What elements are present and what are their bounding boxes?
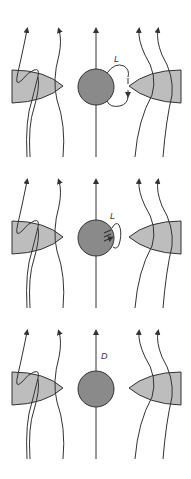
right-wedge xyxy=(129,221,181,254)
right-wedge xyxy=(129,70,181,103)
right-wedge xyxy=(129,372,181,405)
label-L-panel-1: L xyxy=(114,54,119,64)
panel-3: D xyxy=(12,332,181,459)
label-D: D xyxy=(101,351,108,361)
sphere xyxy=(78,371,114,407)
field-line xyxy=(55,30,64,157)
sphere xyxy=(78,220,114,256)
field-line xyxy=(55,181,64,308)
field-line xyxy=(55,332,64,459)
label-L-panel-2: L xyxy=(110,211,115,221)
sphere xyxy=(78,69,114,105)
panel-1: L xyxy=(12,30,181,157)
diagram: L L D xyxy=(0,0,191,479)
panel-2: L xyxy=(12,181,181,308)
